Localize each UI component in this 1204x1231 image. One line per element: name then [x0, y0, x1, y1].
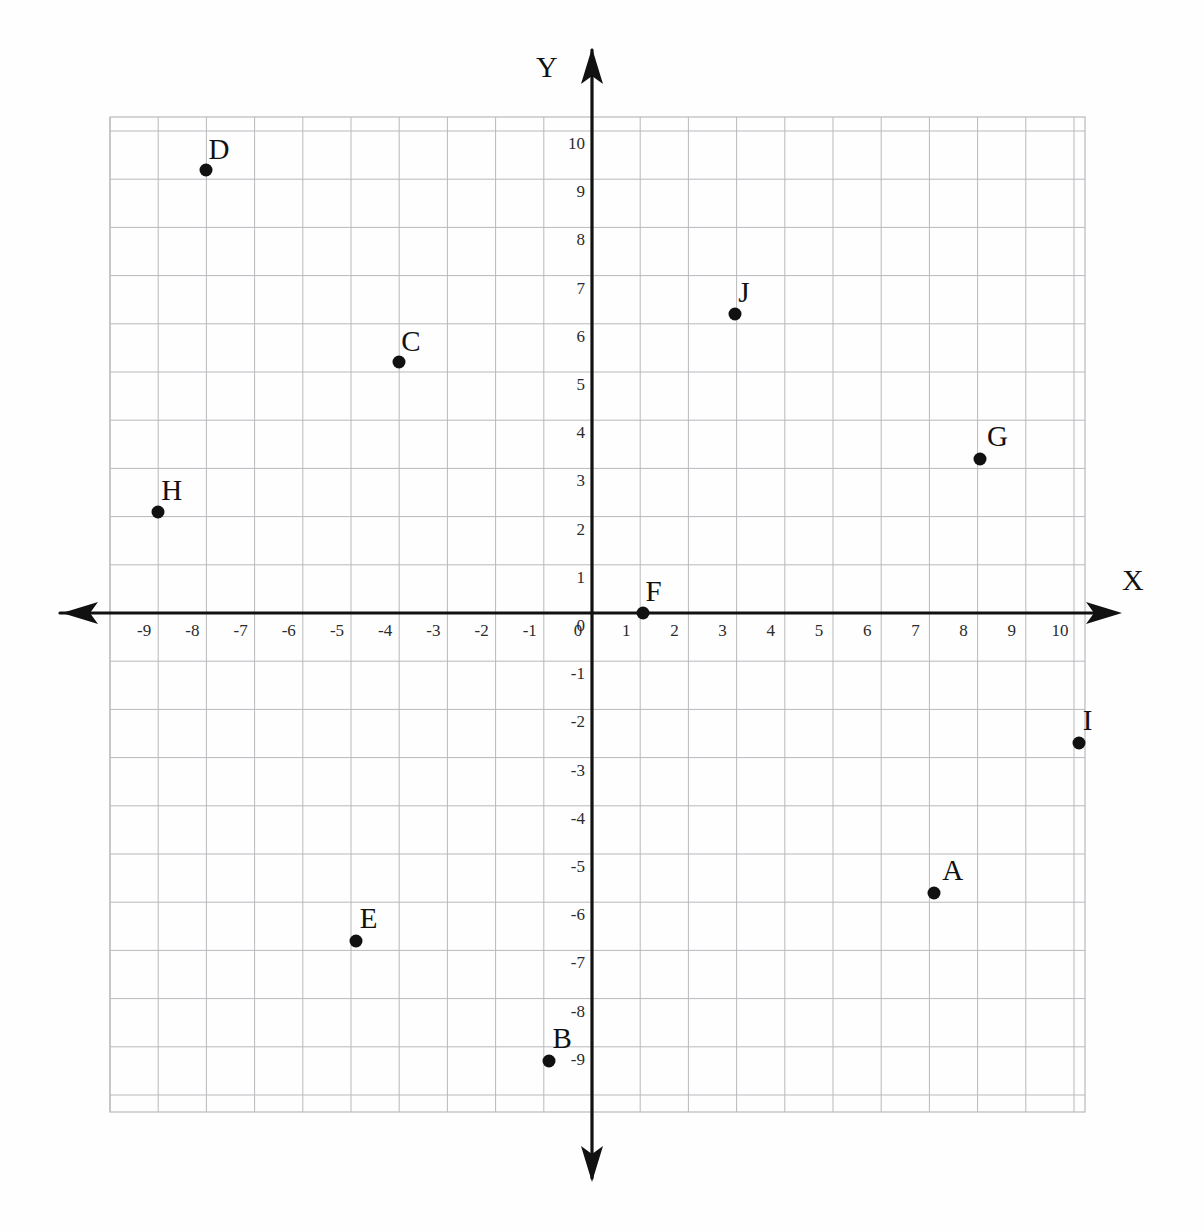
x-tick-label: -5 — [330, 622, 344, 639]
y-tick-label: -2 — [571, 713, 585, 730]
x-tick-label: -1 — [523, 622, 537, 639]
point-label-g: G — [987, 422, 1008, 451]
x-tick-label: 6 — [863, 622, 872, 639]
y-tick-label: 2 — [577, 520, 586, 537]
y-axis-label: Y — [536, 52, 558, 82]
x-tick-label: 5 — [815, 622, 824, 639]
data-point-d — [200, 163, 213, 176]
y-tick-label: -3 — [571, 761, 585, 778]
data-point-f — [636, 607, 649, 620]
x-tick-label: 10 — [1052, 622, 1069, 639]
y-tick-label: -7 — [571, 954, 585, 971]
y-tick-label: -8 — [571, 1002, 585, 1019]
x-tick-label: -3 — [426, 622, 440, 639]
data-point-i — [1072, 737, 1085, 750]
x-tick-label: 9 — [1008, 622, 1017, 639]
data-point-a — [928, 886, 941, 899]
point-label-c: C — [401, 327, 420, 356]
y-tick-label: 5 — [577, 376, 586, 393]
x-tick-label: 3 — [718, 622, 727, 639]
point-label-h: H — [161, 476, 182, 505]
point-label-b: B — [553, 1024, 572, 1053]
point-label-f: F — [646, 577, 662, 606]
data-point-g — [974, 452, 987, 465]
point-label-d: D — [208, 135, 229, 164]
x-tick-label: 7 — [911, 622, 920, 639]
y-tick-label: 3 — [577, 472, 586, 489]
y-tick-label: -9 — [571, 1050, 585, 1067]
point-label-i: I — [1083, 706, 1093, 735]
data-point-e — [349, 934, 362, 947]
graph-axes — [0, 0, 1204, 1231]
graph-grid — [0, 0, 1204, 1231]
y-tick-label: -4 — [571, 809, 585, 826]
point-label-a: A — [942, 856, 963, 885]
y-tick-label: 4 — [577, 424, 586, 441]
x-axis-label: X — [1122, 565, 1144, 595]
x-tick-label: 2 — [670, 622, 679, 639]
y-tick-label: -6 — [571, 906, 585, 923]
data-point-j — [729, 308, 742, 321]
x-tick-label: 1 — [622, 622, 631, 639]
y-tick-label: 8 — [577, 231, 586, 248]
point-label-j: J — [738, 278, 749, 307]
y-tick-label: 1 — [577, 568, 586, 585]
x-tick-label: 8 — [959, 622, 968, 639]
y-tick-label: 10 — [568, 135, 585, 152]
x-tick-label: 4 — [767, 622, 776, 639]
x-tick-label: -8 — [185, 622, 199, 639]
data-point-b — [542, 1055, 555, 1068]
y-tick-label: 9 — [577, 183, 586, 200]
x-tick-label: -9 — [137, 622, 151, 639]
x-tick-label: -7 — [234, 622, 248, 639]
y-tick-label: -5 — [571, 858, 585, 875]
x-tick-label: -6 — [282, 622, 296, 639]
data-point-h — [152, 505, 165, 518]
x-tick-label: -2 — [475, 622, 489, 639]
y-tick-label: -1 — [571, 665, 585, 682]
data-point-c — [393, 356, 406, 369]
y-tick-label: 7 — [577, 279, 586, 296]
point-label-e: E — [360, 904, 378, 933]
x-tick-label: -4 — [378, 622, 392, 639]
y-tick-label: 6 — [577, 327, 586, 344]
coordinate-plane-figure: -9-8-7-6-5-4-3-2-10123456789101098765432… — [0, 0, 1204, 1231]
y-tick-label: 0 — [577, 617, 586, 634]
